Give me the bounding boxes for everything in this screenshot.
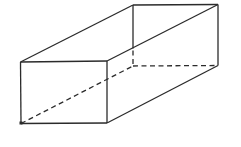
top-left-slant-edge	[21, 5, 134, 62]
front-bottom-left-corner-dot	[20, 122, 23, 125]
box-diagram-svg	[0, 0, 241, 147]
back-top-edge	[133, 5, 218, 6]
bottom-right-slant-edge	[107, 66, 218, 124]
top-right-slant-edge	[107, 5, 218, 62]
front-top-edge	[21, 61, 108, 62]
diagram-canvas	[0, 0, 241, 147]
front-left-edge	[21, 62, 22, 124]
bottom-back-edge-hidden	[133, 66, 218, 67]
bottom-left-slant-hidden	[21, 66, 133, 124]
front-bottom-edge	[21, 123, 107, 124]
